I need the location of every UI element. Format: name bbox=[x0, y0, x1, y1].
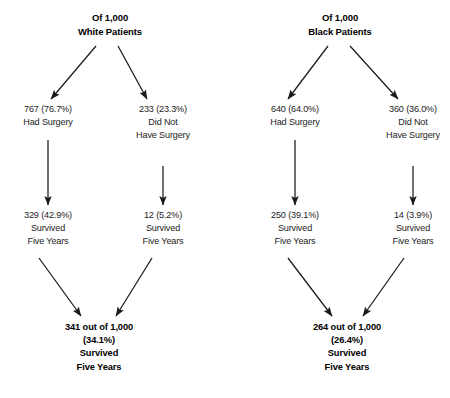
flow-diagram: Of 1,000 White Patients 767 (76.7%) Had … bbox=[0, 0, 450, 398]
node-black-no-surgery-survived: 14 (3.9%) Survived Five Years bbox=[393, 209, 434, 248]
node-black-total-line-4: Five Years bbox=[313, 361, 381, 374]
node-black-no-surgery-desc-1: Did Not bbox=[386, 116, 440, 129]
node-black-had-surgery-survived-line-2: Five Years bbox=[271, 235, 319, 248]
arrow-black-to-had-surgery bbox=[288, 46, 328, 99]
node-white-total-line-4: Five Years bbox=[65, 361, 133, 374]
node-black-total-line-3: Survived bbox=[313, 347, 381, 360]
node-black-no-surgery-survived-line-1: Survived bbox=[393, 222, 434, 235]
panel-white-title: Of 1,000 White Patients bbox=[78, 11, 142, 40]
node-black-no-surgery-survived-count: 14 (3.9%) bbox=[393, 209, 434, 222]
node-black-had-surgery-desc-1: Had Surgery bbox=[270, 116, 319, 129]
node-black-had-surgery-survived-count: 250 (39.1%) bbox=[271, 209, 319, 222]
node-black-had-surgery: 640 (64.0%) Had Surgery bbox=[270, 103, 319, 129]
node-white-no-surgery-desc-1: Did Not bbox=[136, 116, 190, 129]
panel-black-title-line-1: Of 1,000 bbox=[308, 11, 372, 25]
node-white-had-surgery: 767 (76.7%) Had Surgery bbox=[23, 103, 72, 129]
panel-black-title: Of 1,000 Black Patients bbox=[308, 11, 372, 40]
node-black-no-surgery-desc-2: Have Surgery bbox=[386, 129, 440, 142]
node-black-had-surgery-count: 640 (64.0%) bbox=[270, 103, 319, 116]
node-white-no-surgery-survived-line-2: Five Years bbox=[143, 235, 184, 248]
node-white-total-line-3: Survived bbox=[65, 347, 133, 360]
node-black-no-surgery-count: 360 (36.0%) bbox=[386, 103, 440, 116]
node-black-total-line-1: 264 out of 1,000 bbox=[313, 321, 381, 334]
node-white-total-survived: 341 out of 1,000 (34.1%) Survived Five Y… bbox=[65, 321, 133, 374]
node-white-had-surgery-survived-count: 329 (42.9%) bbox=[24, 209, 72, 222]
node-white-no-surgery-survived-line-1: Survived bbox=[143, 222, 184, 235]
node-white-no-surgery-survived: 12 (5.2%) Survived Five Years bbox=[143, 209, 184, 248]
node-white-had-surgery-survived: 329 (42.9%) Survived Five Years bbox=[24, 209, 72, 248]
node-white-had-surgery-survived-line-1: Survived bbox=[24, 222, 72, 235]
arrow-white-to-no-surgery bbox=[118, 46, 147, 99]
node-white-no-surgery-count: 233 (23.3%) bbox=[136, 103, 190, 116]
arrow-black-survived-left-to-total bbox=[288, 258, 332, 316]
node-white-total-line-2: (34.1%) bbox=[65, 334, 133, 347]
node-white-no-surgery-survived-count: 12 (5.2%) bbox=[143, 209, 184, 222]
arrow-white-survived-left-to-total bbox=[39, 258, 81, 316]
arrow-white-to-had-surgery bbox=[51, 46, 96, 99]
node-white-had-surgery-survived-line-2: Five Years bbox=[24, 235, 72, 248]
arrow-black-survived-right-to-total bbox=[363, 258, 404, 316]
node-white-had-surgery-desc-1: Had Surgery bbox=[23, 116, 72, 129]
node-white-no-surgery: 233 (23.3%) Did Not Have Surgery bbox=[136, 103, 190, 142]
node-white-had-surgery-count: 767 (76.7%) bbox=[23, 103, 72, 116]
node-black-no-surgery: 360 (36.0%) Did Not Have Surgery bbox=[386, 103, 440, 142]
panel-white-title-line-2: White Patients bbox=[78, 25, 142, 39]
arrow-black-to-no-surgery bbox=[350, 46, 398, 99]
panel-black-title-line-2: Black Patients bbox=[308, 25, 372, 39]
arrow-white-survived-right-to-total bbox=[116, 258, 152, 316]
node-black-had-surgery-survived: 250 (39.1%) Survived Five Years bbox=[271, 209, 319, 248]
node-black-had-surgery-survived-line-1: Survived bbox=[271, 222, 319, 235]
node-white-total-line-1: 341 out of 1,000 bbox=[65, 321, 133, 334]
node-black-total-survived: 264 out of 1,000 (26.4%) Survived Five Y… bbox=[313, 321, 381, 374]
node-black-total-line-2: (26.4%) bbox=[313, 334, 381, 347]
node-black-no-surgery-survived-line-2: Five Years bbox=[393, 235, 434, 248]
node-white-no-surgery-desc-2: Have Surgery bbox=[136, 129, 190, 142]
panel-white-title-line-1: Of 1,000 bbox=[78, 11, 142, 25]
